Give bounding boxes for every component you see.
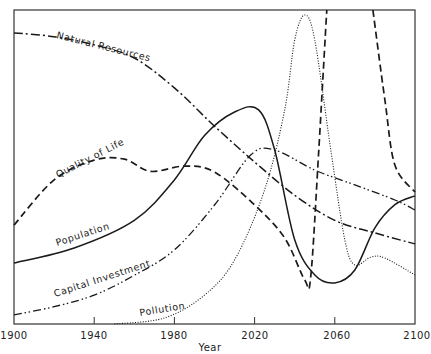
series-pollution-line	[114, 15, 415, 324]
label-population: Population	[54, 220, 111, 248]
x-tick-label-1980: 1980	[160, 330, 187, 341]
x-tick-label-1900: 1900	[0, 330, 27, 341]
world-model-chart: 1900 1940 1980 2020 2060 2100 Year Natur…	[0, 0, 431, 354]
label-capital-investment: Capital Investment	[52, 257, 151, 299]
series-quality-of-life-line	[14, 10, 327, 289]
label-natural-resources: Natural Resources	[56, 29, 153, 63]
series-natural-resources-line	[14, 33, 415, 244]
series-population-line	[14, 107, 415, 283]
x-tick-label-2100: 2100	[403, 330, 430, 341]
label-pollution: Pollution	[139, 300, 186, 318]
x-tick-label-1940: 1940	[80, 330, 107, 341]
x-tick-label-2020: 2020	[241, 330, 268, 341]
series-quality-of-life-line	[373, 10, 415, 192]
x-axis-title: Year	[197, 342, 222, 353]
x-tick-label-2060: 2060	[323, 330, 350, 341]
